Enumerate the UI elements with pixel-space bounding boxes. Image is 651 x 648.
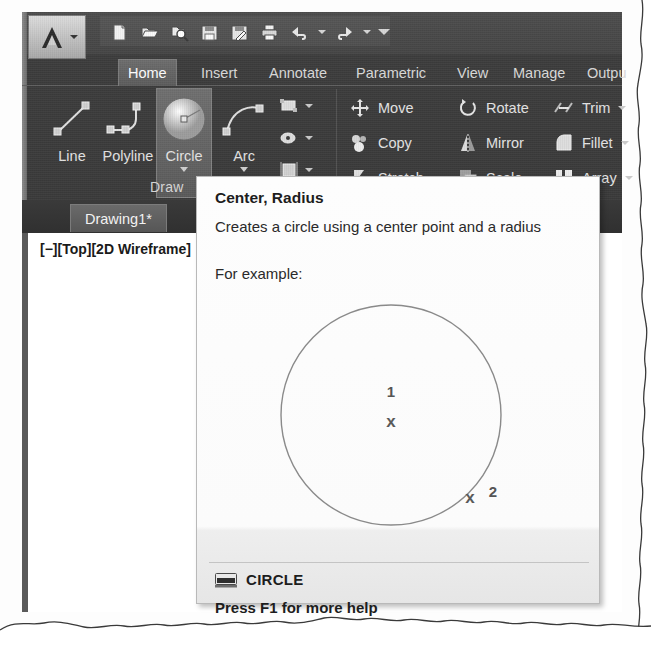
page-torn-right-edge xyxy=(612,0,651,648)
mirror-icon xyxy=(456,132,480,154)
ellipse-caret-icon[interactable] xyxy=(305,136,313,140)
open-from-web-icon[interactable] xyxy=(168,21,191,44)
circle-command-tooltip: Center, Radius Creates a circle using a … xyxy=(196,176,600,604)
modify-mirror-label: Mirror xyxy=(486,135,524,151)
tab-label: Insert xyxy=(201,65,237,81)
redo-icon[interactable] xyxy=(333,21,356,44)
tooltip-help-text: Press F1 for more help xyxy=(215,599,378,616)
modify-trim-label: Trim xyxy=(582,100,610,116)
open-icon[interactable] xyxy=(138,21,161,44)
tab-view[interactable]: View xyxy=(448,59,497,86)
ribbon-tab-row: Home Insert Annotate Parametric View Man… xyxy=(22,56,622,86)
arc-dropdown-caret-icon[interactable] xyxy=(240,167,248,172)
tab-label: Manage xyxy=(513,65,565,81)
fillet-icon xyxy=(552,132,576,154)
tooltip-example-label: For example: xyxy=(215,265,303,282)
draw-panel-title: Draw xyxy=(150,179,183,195)
viewport-controls-label[interactable]: [−][Top][2D Wireframe] xyxy=(40,241,191,257)
tooltip-command-name: CIRCLE xyxy=(246,571,304,588)
draw-polyline-button[interactable]: Polyline xyxy=(100,89,156,181)
figure-marker-2-x: x xyxy=(465,488,475,507)
circle-icon xyxy=(158,89,210,149)
document-tab-drawing1[interactable]: Drawing1* xyxy=(70,204,167,232)
draw-arc-button[interactable]: Arc xyxy=(216,89,272,181)
save-as-icon[interactable] xyxy=(228,21,251,44)
application-menu-button[interactable] xyxy=(28,15,86,59)
undo-caret-icon[interactable] xyxy=(318,30,326,34)
tab-label: Parametric xyxy=(356,65,426,81)
tab-label: Annotate xyxy=(269,65,327,81)
modify-rotate-label: Rotate xyxy=(486,100,529,116)
polyline-icon xyxy=(103,89,153,149)
draw-polyline-label: Polyline xyxy=(103,149,154,164)
ellipse-icon xyxy=(278,127,300,149)
trim-icon xyxy=(552,97,576,119)
figure-marker-2-number: 2 xyxy=(489,483,497,500)
tab-parametric[interactable]: Parametric xyxy=(347,59,435,86)
new-icon[interactable] xyxy=(108,21,131,44)
rectangle-caret-icon[interactable] xyxy=(305,104,313,108)
rotate-icon xyxy=(456,97,480,119)
quick-access-toolbar-row xyxy=(22,12,622,56)
modify-rotate-button[interactable]: Rotate xyxy=(456,93,529,122)
arc-icon xyxy=(220,89,268,149)
rectangle-icon xyxy=(278,95,300,117)
modify-copy-label: Copy xyxy=(378,135,412,151)
draw-rectangle-button[interactable] xyxy=(278,92,326,120)
command-line-icon xyxy=(215,572,237,588)
tab-label: Home xyxy=(128,65,167,81)
line-icon xyxy=(49,89,95,149)
modify-mirror-button[interactable]: Mirror xyxy=(456,128,524,157)
redo-caret-icon[interactable] xyxy=(363,30,371,34)
tab-insert[interactable]: Insert xyxy=(192,59,246,86)
tab-annotate[interactable]: Annotate xyxy=(260,59,336,86)
copy-icon xyxy=(348,132,372,154)
autocad-a-icon xyxy=(37,22,67,52)
tooltip-figure: 1 x x 2 xyxy=(215,289,583,557)
autocad-window: Home Insert Annotate Parametric View Man… xyxy=(22,12,622,612)
plot-icon[interactable] xyxy=(258,21,281,44)
tab-home[interactable]: Home xyxy=(118,59,177,86)
undo-icon[interactable] xyxy=(288,21,311,44)
draw-line-label: Line xyxy=(58,149,85,164)
draw-ellipse-button[interactable] xyxy=(278,124,326,152)
figure-marker-1-x: x xyxy=(386,412,396,431)
modify-fillet-label: Fillet xyxy=(582,135,613,151)
draw-line-button[interactable]: Line xyxy=(44,89,100,181)
ribbon-chrome: Home Insert Annotate Parametric View Man… xyxy=(22,12,622,200)
draw-circle-label: Circle xyxy=(165,149,202,164)
customize-qat-icon[interactable] xyxy=(378,29,390,35)
save-icon[interactable] xyxy=(198,21,221,44)
tab-manage[interactable]: Manage xyxy=(504,59,574,86)
tooltip-description: Creates a circle using a center point an… xyxy=(215,217,587,237)
tooltip-title: Center, Radius xyxy=(215,189,324,207)
scanned-page: Home Insert Annotate Parametric View Man… xyxy=(0,0,651,648)
modify-move-label: Move xyxy=(378,100,413,116)
figure-marker-1-number: 1 xyxy=(387,383,395,400)
circle-dropdown-caret-icon[interactable] xyxy=(180,167,188,172)
modify-move-button[interactable]: Move xyxy=(348,93,413,122)
app-menu-caret-icon xyxy=(70,35,78,39)
document-tab-label: Drawing1* xyxy=(85,211,152,227)
tab-label: View xyxy=(457,65,488,81)
move-icon xyxy=(348,97,372,119)
panel-separator xyxy=(336,89,337,181)
tooltip-separator xyxy=(209,562,589,563)
modify-copy-button[interactable]: Copy xyxy=(348,128,412,157)
tooltip-command-row: CIRCLE xyxy=(215,571,304,588)
quick-access-toolbar xyxy=(108,17,390,47)
hatch-caret-icon[interactable] xyxy=(305,168,313,172)
draw-arc-label: Arc xyxy=(233,149,255,164)
